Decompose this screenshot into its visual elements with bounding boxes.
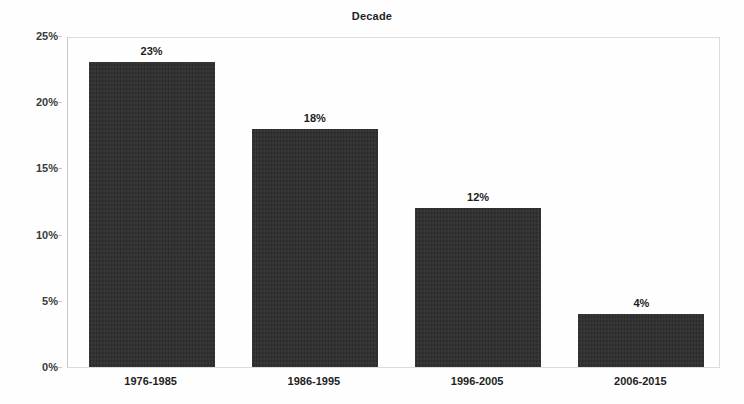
bar-group: 23%: [89, 36, 215, 367]
bar-value-label: 12%: [415, 191, 541, 203]
y-axis-tick-15: 15%: [12, 163, 58, 174]
y-axis-tick-10: 10%: [12, 230, 58, 241]
bar-group: 12%: [415, 36, 541, 367]
bar-value-label: 23%: [89, 45, 215, 57]
plot-area: 23%18%12%4%: [67, 37, 720, 368]
y-axis-tick-mark: [58, 235, 62, 236]
y-axis-tick-mark: [58, 36, 62, 37]
bar-group: 4%: [578, 36, 704, 367]
x-axis-tick-1986-1995: 1986-1995: [251, 375, 377, 388]
y-axis-tick-mark: [58, 102, 62, 103]
x-axis-tick-1996-2005: 1996-2005: [414, 375, 540, 388]
y-axis-tick-0: 0%: [12, 362, 58, 373]
bar-value-label: 4%: [578, 297, 704, 309]
y-axis-tick-mark: [58, 301, 62, 302]
bar-chart: Decade Jobs Created 0%5%10%15%20%25% 23%…: [0, 0, 744, 404]
bar-value-label: 18%: [252, 112, 378, 124]
y-axis-tick-mark: [58, 367, 62, 368]
y-axis-tick-mark: [58, 168, 62, 169]
y-axis-tick-5: 5%: [12, 296, 58, 307]
bar[interactable]: [578, 314, 704, 367]
bar[interactable]: [89, 62, 215, 367]
bar[interactable]: [252, 129, 378, 367]
y-axis-tick-25: 25%: [12, 31, 58, 42]
x-axis-tick-1976-1985: 1976-1985: [88, 375, 214, 388]
chart-title: Decade: [0, 9, 744, 23]
y-axis-tick-20: 20%: [12, 97, 58, 108]
bar-group: 18%: [252, 36, 378, 367]
x-axis-tick-2006-2015: 2006-2015: [577, 375, 703, 388]
bar[interactable]: [415, 208, 541, 367]
